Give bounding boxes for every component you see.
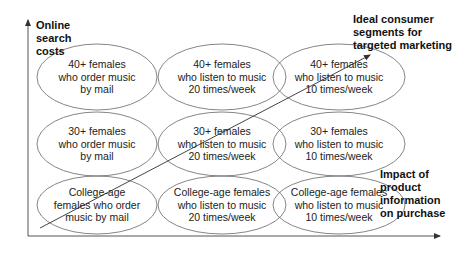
segment-r1c3: 40+ females who listen to music 10 times… xyxy=(273,44,405,110)
segment-text: 40+ females who listen to music 20 times… xyxy=(178,58,267,96)
segment-text: 30+ females who listen to music 10 times… xyxy=(295,125,384,163)
segment-r3c2: College-age females who listen to music … xyxy=(158,176,286,234)
segment-r1c2: 40+ females who listen to music 20 times… xyxy=(158,44,286,110)
segment-r3c1: College-age females who order music by m… xyxy=(37,176,157,234)
segment-r2c3: 30+ females who listen to music 10 times… xyxy=(273,112,405,176)
segment-text: 30+ females who order music by mail xyxy=(58,125,135,163)
segment-text: 30+ females who listen to music 20 times… xyxy=(178,125,267,163)
segment-text: College-age females who listen to music … xyxy=(291,186,387,224)
segment-text: 40+ females who listen to music 10 times… xyxy=(295,58,384,96)
segment-text: 40+ females who order music by mail xyxy=(58,58,135,96)
segment-r1c1: 40+ females who order music by mail xyxy=(37,44,157,110)
segment-text: College-age females who listen to music … xyxy=(174,186,270,224)
segment-r2c1: 30+ females who order music by mail xyxy=(37,112,157,176)
segment-r3c3: College-age females who listen to music … xyxy=(273,176,405,234)
segment-r2c2: 30+ females who listen to music 20 times… xyxy=(158,112,286,176)
segment-text: College-age females who order music by m… xyxy=(54,186,140,224)
